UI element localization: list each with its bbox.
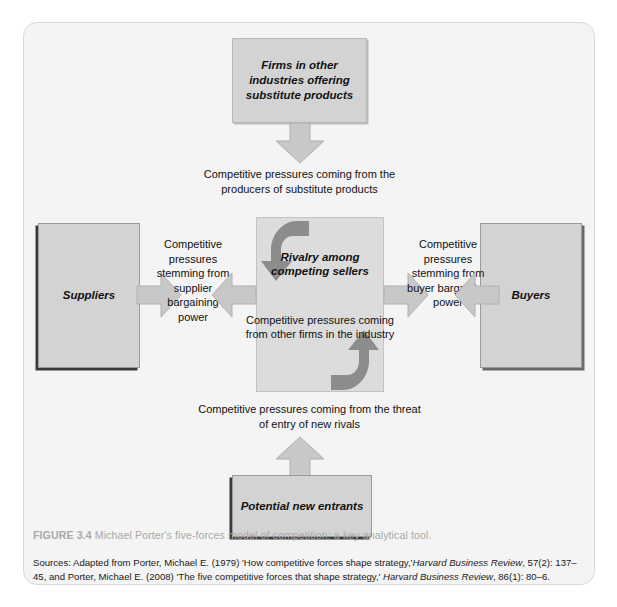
arrow-entrants-up <box>272 435 332 477</box>
figure-caption: FIGURE 3.4 Michael Porter's five-forces … <box>33 529 593 541</box>
node-new-entrants: Potential new entrants <box>232 475 372 537</box>
sources-prefix: Sources: Adapted from Porter, Michael E.… <box>33 557 412 568</box>
arrow-rivalry-left <box>210 273 256 317</box>
figure-caption-text: Michael Porter's five-forces model of co… <box>95 529 432 541</box>
node-suppliers: Suppliers <box>38 223 140 368</box>
figure-sources: Sources: Adapted from Porter, Michael E.… <box>33 556 583 583</box>
figure-number: FIGURE 3.4 <box>33 529 92 541</box>
node-substitutes-label: Firms in other industries offering subst… <box>233 58 366 103</box>
arrow-substitutes-down <box>272 123 332 165</box>
node-buyers-label: Buyers <box>506 288 557 303</box>
edge-label-new-entrants: Competitive pressures coming from the th… <box>197 402 422 431</box>
node-rivalry-body: Competitive pressures coming from other … <box>242 313 398 341</box>
edge-label-substitutes: Competitive pressures coming from the pr… <box>197 167 402 196</box>
figure-card: Firms in other industries offering subst… <box>23 22 595 585</box>
node-new-entrants-label: Potential new entrants <box>235 499 370 514</box>
sources-end: , 86(1): 80–6. <box>493 571 550 582</box>
node-substitutes: Firms in other industries offering subst… <box>232 38 367 123</box>
arrow-buyers-left <box>453 273 499 317</box>
sources-journal-1: Harvard Business Review <box>412 557 522 568</box>
node-suppliers-label: Suppliers <box>57 288 121 303</box>
node-rivalry-title: Rivalry among competing sellers <box>256 250 384 278</box>
sources-journal-2: Harvard Business Review <box>383 571 493 582</box>
